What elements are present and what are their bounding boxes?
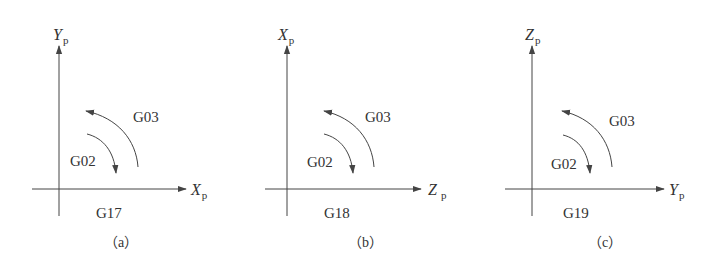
panel-c-drawing <box>474 0 712 271</box>
panel-b-drawing <box>237 0 474 271</box>
panel-a-drawing <box>0 0 237 271</box>
axis-subscript: p <box>202 189 208 201</box>
panel-caption: （a） <box>104 236 138 250</box>
axis-letter: X <box>278 26 288 43</box>
axis-subscript: p <box>289 34 295 46</box>
axis-letter: Z <box>525 26 534 43</box>
axis-subscript: p <box>441 189 447 201</box>
horizontal-axis-label: Yp <box>669 182 684 198</box>
vertical-axis-label: Zp <box>525 27 540 43</box>
horizontal-axis-label: Zp <box>428 182 446 198</box>
panel-b-g18-zx-plane: Xp Zp G03 G02 G18 （b） <box>237 0 474 271</box>
axis-letter: Z <box>428 181 437 198</box>
panel-caption: （c） <box>588 236 622 250</box>
cw-label: G02 <box>307 155 333 170</box>
ccw-label: G03 <box>133 110 159 125</box>
axis-letter: X <box>191 181 201 198</box>
panel-c-g19-yz-plane: Zp Yp G03 G02 G19 （c） <box>474 0 711 271</box>
panel-caption: （b） <box>348 236 383 250</box>
axis-subscript: p <box>679 189 685 201</box>
axis-subscript: p <box>63 34 69 46</box>
ccw-label: G03 <box>609 114 635 129</box>
vertical-axis-label: Yp <box>53 27 68 43</box>
plane-code-label: G17 <box>96 206 122 221</box>
axis-letter: Y <box>53 26 62 43</box>
cw-label: G02 <box>551 157 577 172</box>
plane-code-label: G19 <box>563 206 589 221</box>
ccw-label: G03 <box>365 110 391 125</box>
plane-code-label: G18 <box>324 206 350 221</box>
cw-label: G02 <box>70 154 96 169</box>
axis-subscript: p <box>535 34 541 46</box>
panel-a-g17-xy-plane: Yp Xp G03 G02 G17 （a） <box>0 0 237 271</box>
axis-letter: Y <box>669 181 678 198</box>
vertical-axis-label: Xp <box>278 27 294 43</box>
horizontal-axis-label: Xp <box>191 182 207 198</box>
